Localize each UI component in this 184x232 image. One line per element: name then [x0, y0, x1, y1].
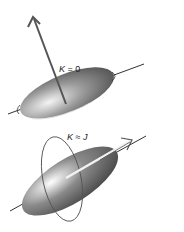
label-value: J [83, 132, 88, 142]
label-k-zero: K = 0 [59, 64, 80, 74]
bottom-molecule [10, 133, 146, 229]
label-relation: ≈ [73, 132, 83, 142]
figure [0, 0, 184, 232]
arrowhead-icon [28, 17, 40, 27]
label-value: 0 [75, 64, 80, 74]
label-k-approx-j: K ≈ J [67, 132, 87, 142]
label-relation: = [65, 64, 75, 74]
